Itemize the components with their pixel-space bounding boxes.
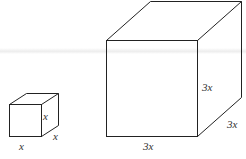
large-cube-front-face — [107, 41, 198, 137]
large-cube-top-face — [107, 2, 242, 41]
large-cube-label-depth: 3x — [226, 118, 238, 130]
cube-diagram: x x x 3x 3x 3x — [0, 0, 246, 159]
small-cube — [10, 94, 59, 137]
small-cube-label-width: x — [18, 140, 24, 152]
large-cube-label-height: 3x — [201, 81, 213, 93]
large-cube — [107, 2, 242, 137]
small-cube-front-face — [10, 105, 42, 137]
large-cube-side-face — [198, 2, 242, 137]
small-cube-top-face — [10, 94, 59, 105]
large-cube-label-width: 3x — [142, 140, 154, 152]
small-cube-label-depth: x — [52, 130, 58, 142]
small-cube-label-height: x — [42, 110, 48, 122]
